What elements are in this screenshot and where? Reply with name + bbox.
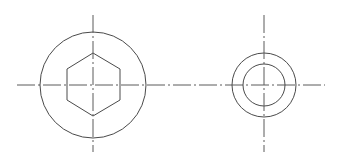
technical-drawing (0, 0, 340, 164)
front-view (40, 15, 146, 152)
side-view (232, 15, 296, 152)
